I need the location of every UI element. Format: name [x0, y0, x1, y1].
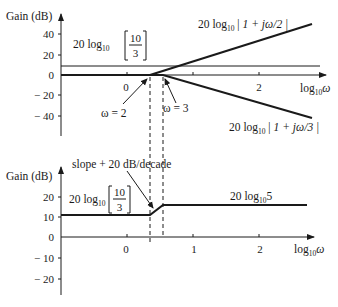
falling-asymptote-label: 20 log10| 1 + jω/3 | — [229, 121, 319, 136]
svg-text:20 log10: 20 log10 — [73, 38, 110, 53]
svg-text:3: 3 — [133, 47, 139, 59]
svg-text:40: 40 — [43, 28, 55, 40]
svg-text:− 40: − 40 — [34, 110, 54, 122]
svg-text:1: 1 — [191, 243, 197, 255]
bottom-x-label: log10ω — [294, 243, 324, 258]
break-arrow-w3 — [165, 79, 176, 103]
svg-text:0: 0 — [123, 81, 129, 93]
svg-text:0: 0 — [49, 231, 55, 243]
svg-text:− 10: − 10 — [34, 252, 54, 264]
constant-gain-label: 20 log10 10 3 — [73, 31, 146, 60]
low-gain-label: 20 log10 10 3 — [69, 186, 130, 213]
bottom-plot: Gain (dB) 20 10 0 − 10 − 20 0 1 2 log10ω… — [6, 158, 324, 295]
svg-text:10: 10 — [130, 32, 142, 44]
svg-text:10: 10 — [114, 186, 126, 198]
svg-text:2: 2 — [257, 243, 263, 255]
bode-diagram: Gain (dB) 40 20 0 − 20 − 40 0 2 log10ω 2… — [0, 0, 338, 307]
slope-arrow — [127, 171, 153, 208]
rising-asymptote-label: 20 log10| 1 + jω/2 | — [198, 18, 288, 33]
top-plot: Gain (dB) 40 20 0 − 20 − 40 0 2 log10ω 2… — [6, 10, 330, 136]
break-label-w2: ω = 2 — [101, 107, 127, 119]
top-y-label: Gain (dB) — [6, 10, 52, 23]
svg-text:3: 3 — [117, 201, 123, 213]
slope-annotation: slope + 20 dB/decade — [72, 158, 171, 171]
top-y-ticks: 40 20 0 − 20 − 40 — [34, 28, 61, 122]
svg-text:20: 20 — [43, 191, 55, 203]
high-gain-label: 20 log105 — [230, 190, 273, 205]
svg-text:20 log10: 20 log10 — [69, 193, 106, 208]
svg-text:10: 10 — [43, 211, 55, 223]
svg-text:0: 0 — [49, 69, 55, 81]
svg-text:20: 20 — [43, 49, 55, 61]
svg-text:0: 0 — [123, 243, 129, 255]
svg-text:− 20: − 20 — [34, 89, 54, 101]
bottom-y-label: Gain (dB) — [6, 170, 52, 183]
svg-text:2: 2 — [256, 81, 262, 93]
svg-text:− 20: − 20 — [34, 273, 54, 285]
break-label-w3: ω = 3 — [163, 102, 189, 114]
bottom-y-ticks: 20 10 0 − 10 − 20 — [34, 191, 61, 285]
top-x-label: log10ω — [300, 82, 330, 97]
